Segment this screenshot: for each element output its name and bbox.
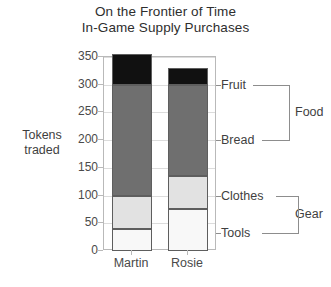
bar-rosie[interactable] <box>168 57 208 251</box>
brace-arm-food-top <box>253 85 281 86</box>
y-tick-label: 200 <box>58 133 98 145</box>
x-tick-label-rosie: Rosie <box>152 256 222 270</box>
leader-line-clothes <box>216 196 221 197</box>
y-tick-label: 300 <box>58 78 98 90</box>
y-tick-label: 0 <box>58 244 98 256</box>
chart-subtitle: In-Game Supply Purchases <box>0 20 331 36</box>
brace-food <box>281 85 290 141</box>
y-tick-label: 50 <box>58 216 98 228</box>
leader-line-bread <box>216 140 221 141</box>
bar-segment-tools[interactable] <box>168 209 208 251</box>
bar-segment-fruit[interactable] <box>112 54 152 84</box>
brace-arm-gear-top <box>276 196 290 197</box>
legend-group-label-gear: Gear <box>295 208 323 221</box>
legend-label-clothes: Clothes <box>221 190 263 203</box>
y-tick-label: 350 <box>58 50 98 62</box>
bar-segment-clothes[interactable] <box>168 176 208 209</box>
bar-segment-bread[interactable] <box>168 85 208 176</box>
legend-label-fruit: Fruit <box>221 79 246 92</box>
leader-line-tools <box>216 233 221 234</box>
legend-label-bread: Bread <box>221 134 254 147</box>
y-tick-label: 150 <box>58 161 98 173</box>
bar-segment-clothes[interactable] <box>112 196 152 229</box>
y-tick-mark <box>97 250 103 251</box>
chart-title-block: On the Frontier of Time In-Game Supply P… <box>0 4 331 36</box>
bar-segment-fruit[interactable] <box>168 68 208 85</box>
x-tick-mark <box>187 250 188 255</box>
leader-line-fruit <box>216 85 221 86</box>
legend-group-label-food: Food <box>295 106 324 119</box>
bar-segment-tools[interactable] <box>112 229 152 251</box>
brace-arm-gear-bottom <box>262 233 290 234</box>
brace-arm-food-bottom <box>262 140 281 141</box>
plot-area <box>103 56 216 250</box>
y-tick-label: 100 <box>58 189 98 201</box>
chart-title: On the Frontier of Time <box>0 4 331 20</box>
stacked-bar-chart: On the Frontier of Time In-Game Supply P… <box>0 0 331 287</box>
brace-gear <box>290 196 299 234</box>
x-tick-mark <box>131 250 132 255</box>
y-tick-label: 250 <box>58 105 98 117</box>
bar-martin[interactable] <box>112 57 152 251</box>
legend-label-tools: Tools <box>221 227 250 240</box>
bar-segment-bread[interactable] <box>112 85 152 196</box>
